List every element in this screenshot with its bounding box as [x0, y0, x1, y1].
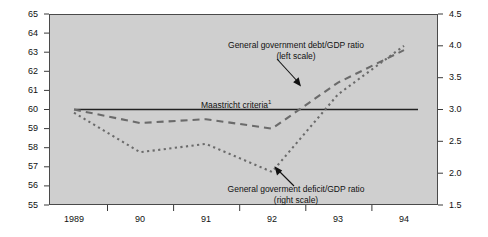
left-tick-65: 65 [14, 10, 38, 19]
x-tick-93: 93 [318, 215, 358, 224]
debt-annotation-arrow [277, 59, 301, 87]
x-tick-1989: 1989 [54, 215, 94, 224]
right-axis-ticks [438, 14, 443, 205]
right-tick-4-5: 4.5 [449, 10, 475, 19]
right-tick-2-5: 2.5 [449, 137, 475, 146]
maastricht-criteria-text: Maastricht criteria [201, 100, 268, 110]
left-tick-63: 63 [14, 48, 38, 57]
left-axis-ticks [44, 14, 49, 205]
right-tick-2-0: 2.0 [449, 169, 475, 178]
maastricht-footnote-marker: 1 [268, 99, 271, 105]
left-tick-60: 60 [14, 105, 38, 114]
left-tick-55: 55 [14, 201, 38, 210]
right-tick-3-5: 3.5 [449, 73, 475, 82]
debt-annotation: General government debt/GDP ratio (left … [213, 40, 379, 62]
left-tick-59: 59 [14, 124, 38, 133]
left-tick-57: 57 [14, 162, 38, 171]
deficit-annotation: General goverment deficit/GDP ratio (rig… [212, 184, 380, 206]
x-tick-91: 91 [186, 215, 226, 224]
right-tick-1-5: 1.5 [449, 201, 475, 210]
right-tick-3-0: 3.0 [449, 105, 475, 114]
x-tick-90: 90 [120, 215, 160, 224]
right-tick-4-0: 4.0 [449, 41, 475, 50]
left-tick-61: 61 [14, 86, 38, 95]
deficit-annotation-line1: General goverment deficit/GDP ratio [228, 184, 365, 194]
left-tick-58: 58 [14, 143, 38, 152]
deficit-annotation-line2: (right scale) [212, 195, 380, 206]
left-tick-56: 56 [14, 181, 38, 190]
left-tick-64: 64 [14, 29, 38, 38]
debt-annotation-line2: (left scale) [213, 51, 379, 62]
maastricht-criteria-label: Maastricht criteria1 [201, 97, 271, 110]
debt-annotation-line1: General government debt/GDP ratio [228, 40, 364, 50]
x-tick-92: 92 [252, 215, 292, 224]
chart-figure: 65 64 63 62 61 60 59 58 57 56 55 4.5 4.0… [0, 0, 488, 237]
x-tick-94: 94 [384, 215, 424, 224]
left-tick-62: 62 [14, 67, 38, 76]
